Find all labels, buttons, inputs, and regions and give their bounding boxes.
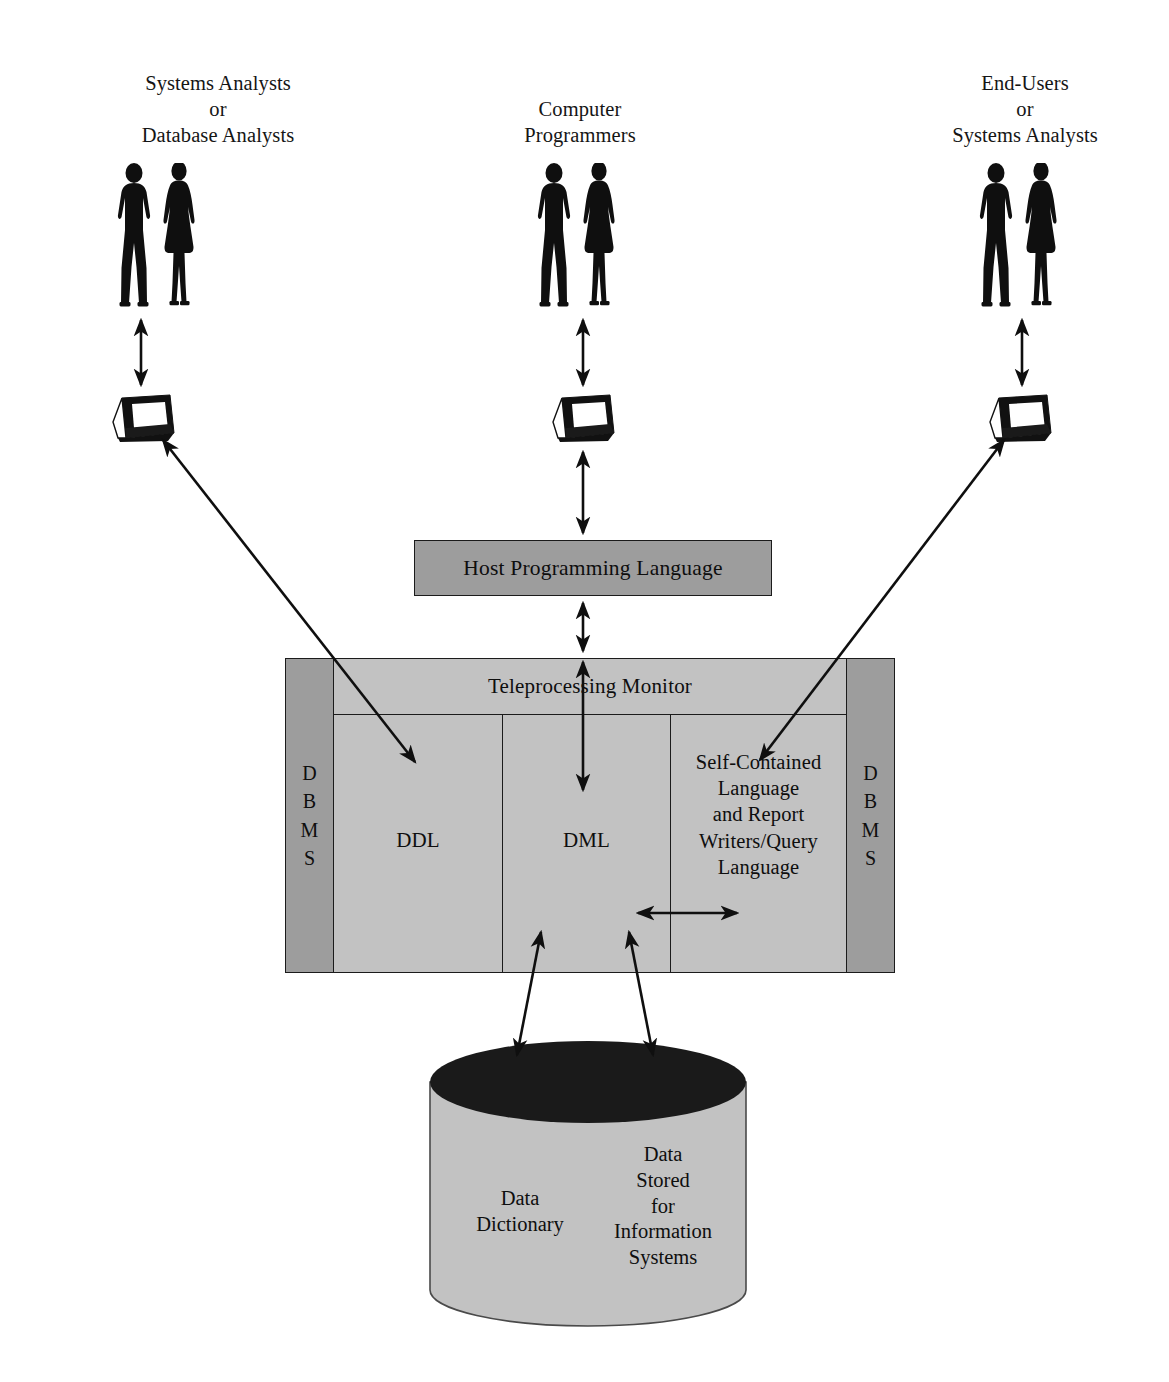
dbms-columns: DDL DML Self-Contained Language and Repo… [334,715,846,972]
host-programming-language-label: Host Programming Language [463,556,722,581]
ddl-label: DDL [396,830,439,858]
database-label-data-stored: Data Stored for Information Systems [588,1142,738,1271]
dbms-letter: S [304,844,315,872]
dbms-letter: D [302,759,316,787]
dbms-column-dml: DML [502,715,670,972]
self-contained-language-label: Self-Contained Language and Report Write… [696,749,822,938]
two-people-icon-left [108,163,218,311]
dbms-bar-left: D B M S [286,659,334,972]
two-people-icon-center [528,163,638,311]
dbms-block: D B M S D B M S Teleprocessing Monitor D… [285,658,895,973]
dbms-letter: B [864,787,877,815]
teleprocessing-monitor-label: Teleprocessing Monitor [488,674,692,699]
actor-label-right: End-Users or Systems Analysts [885,70,1165,149]
database-label-data-dictionary: Data Dictionary [450,1186,590,1238]
dbms-letter: B [303,787,316,815]
dbms-letter: D [863,759,877,787]
diagram-canvas: Systems Analysts or Database Analysts Co… [0,0,1169,1382]
computer-terminal-icon-center [548,392,620,444]
host-programming-language-box: Host Programming Language [414,540,772,596]
dbms-letter: M [301,816,319,844]
computer-terminal-icon-right [985,392,1057,444]
computer-terminal-icon-left [108,392,180,444]
dbms-letter: S [865,844,876,872]
teleprocessing-monitor-row: Teleprocessing Monitor [334,659,846,715]
dbms-column-self-contained-language: Self-Contained Language and Report Write… [670,715,846,972]
dbms-bar-right: D B M S [846,659,894,972]
two-people-icon-right [970,163,1080,311]
dml-label: DML [563,830,610,858]
actor-label-left: Systems Analysts or Database Analysts [18,70,418,149]
actor-label-center: Computer Programmers [440,96,720,148]
database-cylinder: Data Dictionary Data Stored for Informat… [428,1038,748,1342]
dbms-letter: M [862,816,880,844]
dbms-column-ddl: DDL [334,715,502,972]
